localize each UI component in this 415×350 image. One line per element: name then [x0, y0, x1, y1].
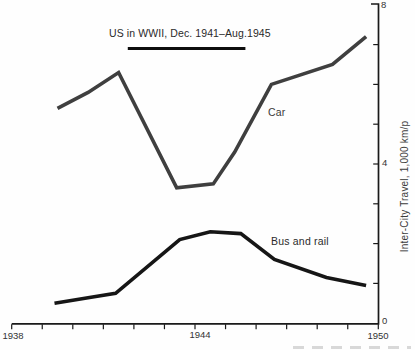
- chart-figure: US in WWII, Dec. 1941–Aug.1945 Car Bus a…: [0, 0, 415, 350]
- x-tick-label-1950: 1950: [363, 330, 393, 341]
- y-tick-label-0: 0: [382, 315, 396, 326]
- series-label-car: Car: [268, 106, 286, 118]
- y-tick-label-4: 4: [382, 157, 396, 168]
- series-label-bus-and-rail: Bus and rail: [271, 235, 329, 247]
- x-tick-label-1944: 1944: [185, 329, 215, 340]
- x-tick-label-1938: 1938: [0, 330, 28, 341]
- y-tick-label-8: 8: [381, 0, 395, 10]
- chart-title-annotation: US in WWII, Dec. 1941–Aug.1945: [109, 27, 259, 39]
- y-axis-title: Inter-City Travel, 1,000 km/p: [399, 92, 412, 282]
- chart-canvas: [0, 0, 415, 350]
- cropped-caption-fragment: [293, 346, 411, 349]
